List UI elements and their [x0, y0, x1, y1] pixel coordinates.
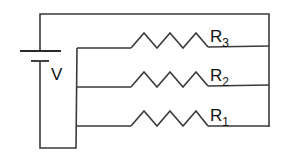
resistor-r3-branch: [77, 33, 269, 48]
bottom-return-wire: [40, 48, 77, 148]
r3-lead-right: [208, 46, 269, 47]
circuit-svg: V R3 R2 R1: [0, 0, 282, 156]
top-wire: [40, 14, 269, 127]
resistor-r2-zigzag-icon: [131, 72, 208, 87]
circuit-diagram: V R3 R2 R1: [0, 0, 282, 156]
resistor-r1-branch: [77, 111, 269, 126]
resistor-r2-branch: [77, 72, 269, 87]
resistor-r3-zigzag-icon: [131, 33, 208, 48]
outer-wires: [40, 14, 269, 148]
resistor-r1-zigzag-icon: [131, 111, 208, 126]
battery-icon: [20, 51, 61, 61]
voltage-label: V: [51, 65, 63, 84]
r2-lead-right: [208, 85, 269, 86]
